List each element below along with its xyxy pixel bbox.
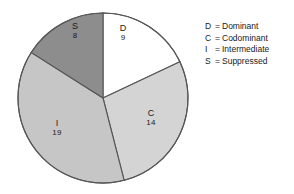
slice-label-suppressed-value: 8 — [62, 31, 88, 41]
pie-chart-figure: D 9 C 14 I 19 S 8 D = Dominant C = Codom… — [0, 0, 294, 194]
legend-item-codominant: C = Codominant — [205, 33, 291, 45]
slice-label-dominant-key: D — [110, 23, 136, 33]
slice-label-codominant-key: C — [138, 108, 164, 118]
slice-label-dominant: D 9 — [110, 23, 136, 43]
legend-key-dominant: D — [205, 21, 213, 33]
legend: D = Dominant C = Codominant I = Intermed… — [205, 21, 291, 67]
slice-label-suppressed: S 8 — [62, 21, 88, 41]
slice-label-dominant-value: 9 — [110, 33, 136, 43]
legend-separator: = — [213, 33, 222, 45]
legend-separator: = — [213, 56, 222, 68]
pie-slices — [18, 13, 188, 183]
legend-key-suppressed: S — [205, 56, 213, 68]
slice-label-codominant-value: 14 — [138, 118, 164, 128]
legend-key-codominant: C — [205, 33, 213, 45]
legend-name-codominant: Codominant — [222, 33, 268, 45]
legend-item-suppressed: S = Suppressed — [205, 56, 291, 68]
legend-key-intermediate: I — [205, 44, 213, 56]
slice-label-intermediate-value: 19 — [44, 128, 70, 138]
slice-label-intermediate-key: I — [44, 118, 70, 128]
slice-label-intermediate: I 19 — [44, 118, 70, 138]
legend-item-intermediate: I = Intermediate — [205, 44, 291, 56]
legend-name-suppressed: Suppressed — [222, 56, 267, 68]
legend-name-intermediate: Intermediate — [222, 44, 269, 56]
slice-label-suppressed-key: S — [62, 21, 88, 31]
legend-name-dominant: Dominant — [222, 21, 258, 33]
slice-label-codominant: C 14 — [138, 108, 164, 128]
legend-separator: = — [213, 21, 222, 33]
legend-item-dominant: D = Dominant — [205, 21, 291, 33]
legend-separator: = — [213, 44, 222, 56]
